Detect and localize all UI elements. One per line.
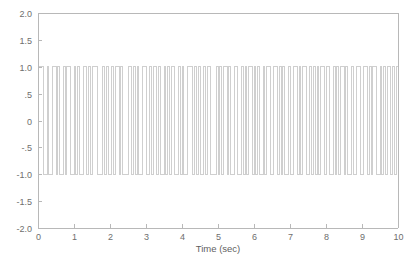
y-tick-label: 1.5: [19, 36, 32, 46]
x-tick-label: 5: [216, 232, 221, 242]
figure-container: 012345678910 2.01.51.0.50-.5-1.0-1.5-2.0…: [0, 0, 414, 263]
x-tick-label: 0: [36, 232, 41, 242]
x-tick-label: 10: [393, 232, 403, 242]
y-tick-label: .5: [24, 90, 32, 100]
y-tick-label: -.5: [21, 143, 32, 153]
x-tick-label: 4: [180, 232, 185, 242]
y-tick-label: -1.0: [16, 170, 32, 180]
x-axis-ticks: 012345678910: [36, 224, 404, 242]
signal-waveform: [38, 67, 398, 175]
y-tick-label: 2.0: [19, 9, 32, 19]
x-tick-label: 8: [324, 232, 329, 242]
x-tick-label: 2: [108, 232, 113, 242]
x-tick-label: 6: [252, 232, 257, 242]
y-tick-label: -1.5: [16, 197, 32, 207]
x-tick-label: 3: [144, 232, 149, 242]
x-axis-title: Time (sec): [196, 243, 241, 254]
x-tick-label: 1: [72, 232, 77, 242]
y-tick-label: 1.0: [19, 63, 32, 73]
waveform-layer: [38, 67, 398, 175]
chart-canvas: 012345678910 2.01.51.0.50-.5-1.0-1.5-2.0…: [0, 0, 414, 263]
y-tick-label: 0: [27, 117, 32, 127]
x-tick-label: 7: [288, 232, 293, 242]
y-tick-label: -2.0: [16, 224, 32, 234]
x-tick-label: 9: [360, 232, 365, 242]
